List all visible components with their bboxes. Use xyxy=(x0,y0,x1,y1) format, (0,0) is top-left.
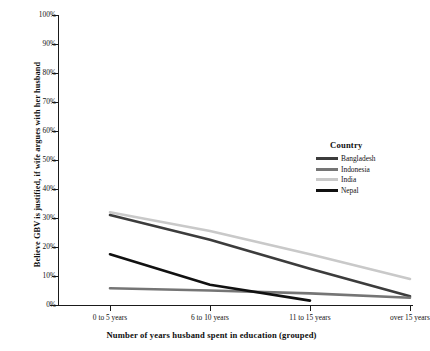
x-tick-label: 6 to 10 years xyxy=(191,313,229,322)
y-tick-label: 20% xyxy=(42,242,56,251)
x-axis-title: Number of years husband spent in educati… xyxy=(0,330,423,340)
y-tick-label: 90% xyxy=(42,39,56,48)
y-tick-label: 80% xyxy=(42,68,56,77)
legend: Country BangladeshIndonesiaIndiaNepal xyxy=(316,140,420,196)
y-tick-label: 60% xyxy=(42,126,56,135)
x-tick-label: 0 to 5 years xyxy=(93,313,127,322)
legend-item-nepal[interactable]: Nepal xyxy=(316,185,420,196)
y-tick-label: 50% xyxy=(42,155,56,164)
y-tick-label: 10% xyxy=(42,271,56,280)
legend-color-swatch xyxy=(316,157,338,160)
legend-item-india[interactable]: India xyxy=(316,175,420,186)
x-tick-label: over 15 years xyxy=(390,313,430,322)
legend-color-swatch xyxy=(316,178,338,181)
y-axis-title: Believe GBV is justified, if wife argues… xyxy=(33,25,42,305)
series-line-bangladesh xyxy=(110,215,410,296)
legend-color-swatch xyxy=(316,189,338,192)
legend-item-label: Bangladesh xyxy=(341,154,375,163)
y-tick-label: 100% xyxy=(39,10,56,19)
y-tick-label: 70% xyxy=(42,97,56,106)
y-tick-label: 30% xyxy=(42,213,56,222)
legend-color-swatch xyxy=(316,168,338,171)
legend-item-label: Nepal xyxy=(341,186,359,195)
x-tick-label: 11 to 15 years xyxy=(289,313,330,322)
legend-title: Country xyxy=(330,140,420,150)
y-tick-label: 0% xyxy=(46,300,56,309)
legend-item-label: Indonesia xyxy=(341,165,370,174)
legend-item-label: India xyxy=(341,175,356,184)
legend-item-list: BangladeshIndonesiaIndiaNepal xyxy=(316,154,420,196)
legend-item-bangladesh[interactable]: Bangladesh xyxy=(316,154,420,165)
legend-item-indonesia[interactable]: Indonesia xyxy=(316,164,420,175)
y-tick-label: 40% xyxy=(42,184,56,193)
